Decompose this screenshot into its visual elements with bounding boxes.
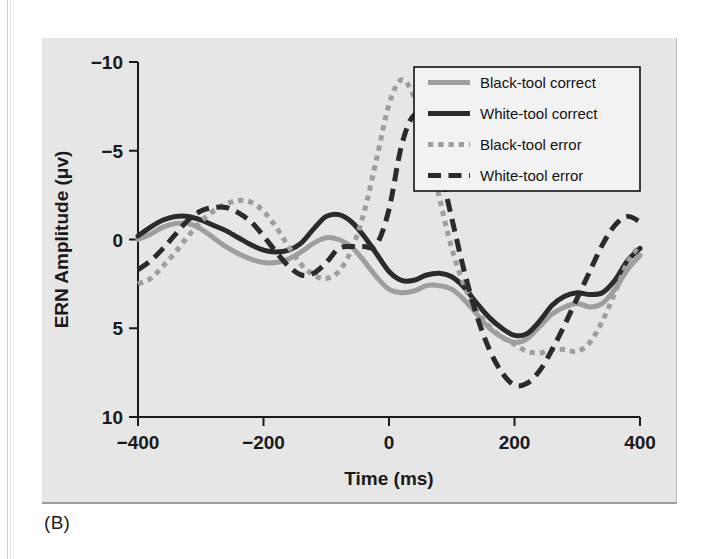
panel-caption-b: (B): [44, 512, 70, 534]
y-tick-label: 10: [102, 407, 123, 428]
ern-amplitude-line-chart: −10−50510−400−2000200400Time (ms)ERN Amp…: [42, 38, 677, 504]
y-tick-label: 0: [112, 230, 123, 251]
series-line-0: [138, 223, 640, 343]
x-tick-label: 200: [499, 432, 531, 453]
page-edge-artifact: [7, 0, 8, 559]
y-tick-label: 5: [112, 318, 123, 339]
series-line-1: [138, 214, 640, 336]
y-axis-title: ERN Amplitude (μv): [51, 151, 72, 329]
x-axis-title: Time (ms): [344, 468, 433, 489]
chart-panel: −10−50510−400−2000200400Time (ms)ERN Amp…: [42, 38, 677, 504]
x-tick-label: −400: [117, 432, 160, 453]
figure-page: −10−50510−400−2000200400Time (ms)ERN Amp…: [0, 0, 701, 559]
legend-label: Black-tool correct: [480, 74, 597, 91]
legend-label: Black-tool error: [480, 136, 582, 153]
y-tick-label: −5: [101, 141, 123, 162]
page-edge-artifact: [13, 0, 14, 559]
x-tick-label: 0: [384, 432, 395, 453]
legend-label: White-tool correct: [480, 105, 598, 122]
y-tick-label: −10: [91, 52, 123, 73]
legend-label: White-tool error: [480, 167, 583, 184]
x-tick-label: −200: [242, 432, 285, 453]
x-tick-label: 400: [624, 432, 656, 453]
chart-legend[interactable]: Black-tool correctWhite-tool correctBlac…: [414, 67, 640, 191]
page-edge-artifact: [10, 0, 11, 559]
